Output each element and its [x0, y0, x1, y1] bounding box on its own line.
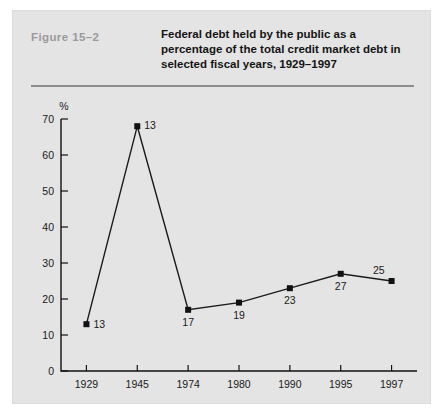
chart-axes [61, 119, 417, 371]
y-tick-label: 40 [42, 221, 54, 233]
data-point-label: 23 [284, 294, 296, 306]
y-axis-tick-labels: 010203040506070 [42, 113, 54, 377]
axis-lines [61, 119, 417, 371]
x-tick-label: 1974 [176, 378, 200, 390]
data-point-marker [185, 307, 191, 313]
figure-root: Figure 15–2 Federal debt held by the pub… [0, 0, 443, 414]
y-tick-label: 50 [42, 185, 54, 197]
data-series-line [86, 126, 391, 324]
y-tick-label: 20 [42, 293, 54, 305]
line-chart: 010203040506070 192919451974198019901995… [13, 79, 432, 405]
x-tick-label: 1997 [380, 378, 404, 390]
data-point-label: 19 [233, 309, 245, 321]
figure-panel: Figure 15–2 Federal debt held by the pub… [12, 10, 431, 404]
x-tick-label: 1990 [278, 378, 302, 390]
x-axis-tick-labels: 1929194519741980199019951997 [75, 378, 404, 390]
y-tick-label: 70 [42, 113, 54, 125]
data-point-marker [338, 271, 344, 277]
chart-svg: 010203040506070 192919451974198019901995… [13, 79, 432, 405]
data-point-label: 25 [373, 264, 385, 276]
y-axis-unit-label: % [59, 100, 68, 112]
data-point-marker [83, 321, 89, 327]
figure-header: Figure 15–2 Federal debt held by the pub… [13, 11, 430, 79]
figure-number-label: Figure 15–2 [31, 31, 99, 43]
y-axis-ticks [61, 119, 68, 371]
figure-title: Federal debt held by the public as a per… [161, 27, 419, 72]
y-tick-label: 0 [48, 365, 54, 377]
data-point-label: 13 [93, 318, 105, 330]
data-point-marker [389, 278, 395, 284]
y-tick-label: 10 [42, 329, 54, 341]
data-point-marker [287, 285, 293, 291]
data-point-label: 27 [335, 280, 347, 292]
data-point-marker [134, 123, 140, 129]
data-point-label: 13 [144, 119, 156, 131]
x-axis-ticks [86, 365, 391, 371]
data-point-marker [236, 300, 242, 306]
y-tick-label: 60 [42, 149, 54, 161]
x-tick-label: 1995 [329, 378, 353, 390]
data-point-labels: 13131719232725 [93, 119, 384, 330]
x-tick-label: 1980 [227, 378, 251, 390]
x-tick-label: 1945 [126, 378, 150, 390]
data-point-label: 17 [182, 316, 194, 328]
x-tick-label: 1929 [75, 378, 99, 390]
y-tick-label: 30 [42, 257, 54, 269]
